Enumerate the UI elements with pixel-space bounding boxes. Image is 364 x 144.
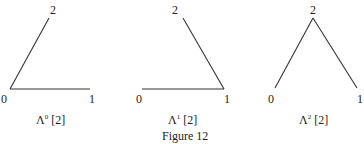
panel-caption-horn-0: Λ0 [2] [36, 111, 65, 126]
vertex-label-0: 0 [136, 93, 142, 105]
panel-caption-horn-2: Λ2 [2] [299, 111, 328, 126]
vertex-label-2: 2 [172, 4, 178, 16]
vertex-label-0: 0 [268, 93, 274, 105]
vertex-label-1: 1 [89, 93, 95, 105]
vertex-label-1: 1 [357, 93, 363, 105]
vertex-label-0: 0 [1, 93, 7, 105]
caption-lambda: Λ [36, 113, 45, 127]
edge-1-2 [313, 18, 357, 88]
panel-caption-horn-1: Λ1 [2] [168, 111, 197, 126]
edge-0-2 [275, 18, 313, 88]
caption-argument: [2] [180, 113, 197, 127]
caption-lambda: Λ [299, 113, 308, 127]
caption-argument: [2] [48, 113, 65, 127]
vertex-label-2: 2 [50, 4, 56, 16]
vertex-label-1: 1 [224, 93, 230, 105]
horn-1-edges [142, 18, 224, 89]
edge-1-2 [183, 18, 224, 89]
caption-lambda: Λ [168, 113, 177, 127]
horn-2-edges [275, 18, 357, 88]
edge-0-2 [10, 18, 49, 89]
caption-argument: [2] [311, 113, 328, 127]
vertex-label-2: 2 [310, 4, 316, 16]
horn-0-edges [10, 18, 90, 89]
figure-caption: Figure 12 [162, 130, 208, 142]
